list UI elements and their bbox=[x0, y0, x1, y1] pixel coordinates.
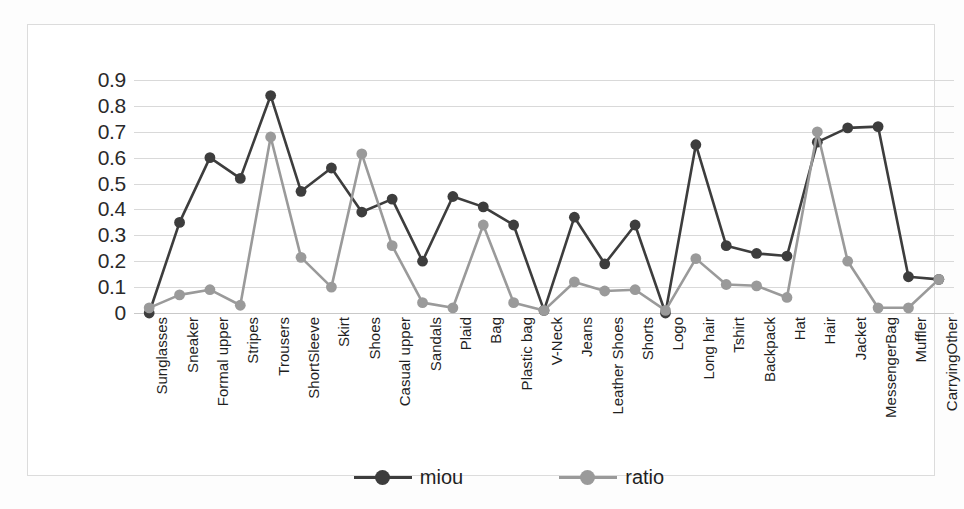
y-axis-tick-label: 0.9 bbox=[98, 68, 126, 92]
data-point bbox=[690, 139, 701, 150]
chart-legend: miouratio bbox=[55, 457, 963, 497]
chart-screenshot: 00.10.20.30.40.50.60.70.80.9 SunglassesS… bbox=[0, 0, 964, 509]
y-axis-tick-label: 0 bbox=[115, 301, 126, 325]
x-axis-tick-label: Plastic bag bbox=[519, 317, 534, 390]
data-point bbox=[356, 148, 367, 159]
x-axis-tick-label: Formal upper bbox=[215, 317, 230, 406]
data-point bbox=[387, 240, 398, 251]
legend-dot-icon bbox=[375, 470, 390, 485]
data-point bbox=[933, 274, 944, 285]
data-point bbox=[660, 305, 671, 316]
data-point bbox=[205, 284, 216, 295]
legend-label: ratio bbox=[625, 466, 664, 489]
x-axis-tick-label: Jacket bbox=[853, 317, 868, 360]
legend-label: miou bbox=[420, 466, 463, 489]
data-point bbox=[539, 305, 550, 316]
data-point bbox=[508, 297, 519, 308]
data-point bbox=[235, 300, 246, 311]
data-point bbox=[235, 173, 246, 184]
x-axis-tick-label: Logo bbox=[670, 317, 685, 350]
x-axis-tick-label: Sandals bbox=[428, 317, 443, 371]
data-point bbox=[842, 122, 853, 133]
y-axis-tick-label: 0.6 bbox=[98, 146, 126, 170]
data-point bbox=[356, 207, 367, 218]
x-axis-tick-label: Shoes bbox=[367, 317, 382, 360]
series-miou bbox=[144, 90, 944, 318]
data-point bbox=[599, 286, 610, 297]
data-point bbox=[873, 302, 884, 313]
data-point bbox=[782, 251, 793, 262]
data-point bbox=[417, 297, 428, 308]
data-point bbox=[417, 256, 428, 267]
data-point bbox=[873, 121, 884, 132]
x-axis-tick-label: Leather Shoes bbox=[610, 317, 625, 415]
data-point bbox=[812, 126, 823, 137]
data-point bbox=[326, 282, 337, 293]
x-axis-tick-label: Skirt bbox=[336, 317, 351, 347]
data-point bbox=[630, 284, 641, 295]
data-point bbox=[326, 163, 337, 174]
x-axis-tick-label: Bag bbox=[488, 317, 503, 344]
x-axis-tick-label: V-Neck bbox=[549, 317, 564, 365]
y-axis-tick-label: 0.3 bbox=[98, 223, 126, 247]
data-point bbox=[265, 132, 276, 143]
x-axis-tick-label: Shorts bbox=[640, 317, 655, 360]
x-axis-tick-label: ShortSleeve bbox=[306, 317, 321, 399]
data-point bbox=[721, 240, 732, 251]
legend-marker-icon bbox=[354, 469, 412, 485]
y-axis-tick-label: 0.2 bbox=[98, 249, 126, 273]
data-point bbox=[144, 302, 155, 313]
legend-dot-icon bbox=[580, 470, 595, 485]
data-point bbox=[751, 280, 762, 291]
y-axis-tick-label: 0.7 bbox=[98, 120, 126, 144]
y-axis-tick-label: 0.5 bbox=[98, 172, 126, 196]
series-ratio bbox=[144, 126, 944, 315]
y-axis-tick-label: 0.1 bbox=[98, 275, 126, 299]
data-point bbox=[782, 292, 793, 303]
x-axis-tick-label: Casual upper bbox=[397, 317, 412, 406]
data-point bbox=[903, 271, 914, 282]
series-line-ratio bbox=[149, 132, 939, 311]
x-axis-tick-label: Stripes bbox=[245, 317, 260, 364]
series-layer bbox=[134, 80, 954, 313]
data-point bbox=[721, 279, 732, 290]
data-point bbox=[842, 256, 853, 267]
data-point bbox=[174, 217, 185, 228]
x-axis-tick-label: Sneaker bbox=[185, 317, 200, 373]
data-point bbox=[296, 186, 307, 197]
x-axis-tick-label: CarryingOther bbox=[944, 317, 959, 411]
x-axis-tick-label: Hair bbox=[822, 317, 837, 345]
legend-entry-ratio[interactable]: ratio bbox=[559, 466, 664, 489]
x-axis-tick-label: Trousers bbox=[276, 317, 291, 376]
data-point bbox=[174, 289, 185, 300]
data-point bbox=[387, 194, 398, 205]
x-axis: SunglassesSneakerFormal upperStripesTrou… bbox=[134, 317, 954, 447]
x-axis-tick-label: MessengerBag bbox=[883, 317, 898, 418]
data-point bbox=[478, 201, 489, 212]
x-axis-tick-label: Backpack bbox=[762, 317, 777, 382]
data-point bbox=[478, 220, 489, 231]
x-axis-tick-label: Plaid bbox=[458, 317, 473, 350]
data-point bbox=[569, 212, 580, 223]
y-axis-tick-label: 0.4 bbox=[98, 197, 126, 221]
plot-area bbox=[134, 80, 954, 313]
data-point bbox=[265, 90, 276, 101]
x-axis-tick-label: Muffler bbox=[913, 317, 928, 363]
data-point bbox=[599, 258, 610, 269]
data-point bbox=[296, 252, 307, 263]
x-axis-tick-label: Sunglasses bbox=[154, 317, 169, 395]
x-axis-tick-label: Tshirt bbox=[731, 317, 746, 353]
legend-entry-miou[interactable]: miou bbox=[354, 466, 463, 489]
data-point bbox=[630, 220, 641, 231]
y-axis-tick-label: 0.8 bbox=[98, 94, 126, 118]
chart-frame: 00.10.20.30.40.50.60.70.80.9 SunglassesS… bbox=[27, 24, 935, 476]
x-axis-tick-label: Long hair bbox=[701, 317, 716, 380]
data-point bbox=[447, 302, 458, 313]
data-point bbox=[447, 191, 458, 202]
data-point bbox=[751, 248, 762, 259]
x-axis-tick-label: Jeans bbox=[579, 317, 594, 357]
data-point bbox=[205, 152, 216, 163]
legend-marker-icon bbox=[559, 469, 617, 485]
x-axis-tick-label: Hat bbox=[792, 317, 807, 340]
data-point bbox=[903, 302, 914, 313]
